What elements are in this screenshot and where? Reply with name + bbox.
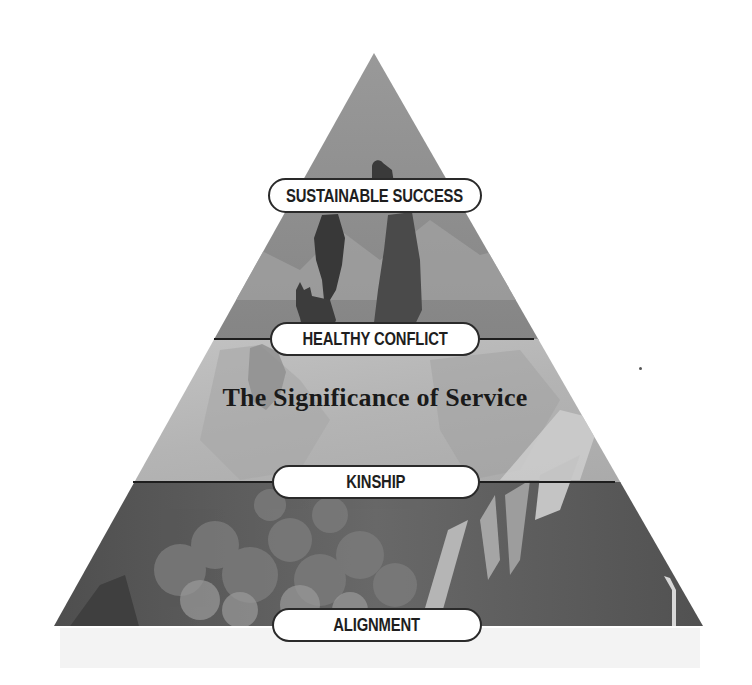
level-pill-kinship: Kinship (272, 465, 480, 499)
level-label: Sustainable Success (286, 185, 463, 207)
pyramid-diagram: Sustainable Success Healthy Conflict The… (0, 0, 752, 685)
speck-artifact (639, 367, 642, 370)
pyramid-title: The Significance of Service (150, 383, 600, 413)
level-label: Kinship (346, 471, 405, 493)
level-label: Alignment (334, 614, 421, 636)
level-label: Healthy Conflict (302, 328, 447, 350)
level-pill-alignment: Alignment (272, 608, 482, 642)
level-pill-sustainable-success: Sustainable Success (268, 178, 482, 213)
level-pill-healthy-conflict: Healthy Conflict (270, 322, 480, 356)
